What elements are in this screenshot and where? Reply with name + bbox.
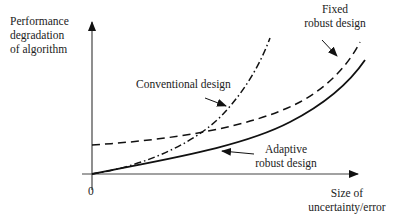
fixed-pointer-arrow bbox=[322, 40, 337, 56]
conventional-design-label: Conventional design bbox=[136, 77, 231, 91]
x-axis-label-line: uncertainty/error bbox=[300, 200, 394, 214]
fixed-robust-design-label: Fixed robust design bbox=[290, 2, 380, 30]
fixed-robust-design-curve bbox=[92, 42, 360, 145]
y-axis-label: Performance degradation of algorithm bbox=[10, 14, 69, 56]
x-axis-label-line: Size of bbox=[300, 186, 394, 200]
adaptive-robust-design-label: Adaptive robust design bbox=[246, 142, 326, 170]
y-axis-label-line: of algorithm bbox=[10, 42, 69, 56]
fixed-label-line: Fixed bbox=[290, 2, 380, 16]
conventional-design-curve bbox=[92, 38, 270, 174]
x-axis-label: Size of uncertainty/error bbox=[300, 186, 394, 214]
y-axis-label-line: Performance bbox=[10, 14, 69, 28]
conventional-pointer-arrow bbox=[205, 98, 226, 106]
origin-label: 0 bbox=[88, 184, 94, 198]
adaptive-label-line: Adaptive bbox=[246, 142, 326, 156]
y-axis-label-line: degradation bbox=[10, 28, 69, 42]
fixed-label-line: robust design bbox=[290, 16, 380, 30]
adaptive-label-line: robust design bbox=[246, 156, 326, 170]
